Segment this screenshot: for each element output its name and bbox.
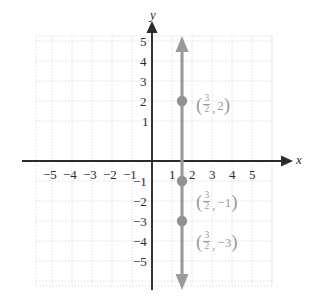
y-axis-label: y: [150, 8, 156, 21]
open-paren: (: [196, 95, 202, 114]
fraction-three-halves: 3 2: [203, 94, 210, 114]
label-y-value: −3: [217, 236, 231, 249]
close-paren: ): [224, 95, 230, 114]
x-axis-label: x: [296, 153, 302, 166]
point-label-three-halves-negative-three: ( 3 2 , −3 ): [196, 232, 238, 252]
y-tick-label: −1: [133, 175, 147, 188]
x-tick-label: −4: [63, 168, 77, 181]
fraction-three-halves: 3 2: [203, 191, 210, 211]
open-paren: (: [196, 192, 202, 211]
x-tick-label: −2: [103, 168, 117, 181]
y-tick-label: 5: [140, 35, 147, 48]
point-marker: [177, 216, 187, 226]
point-marker: [177, 96, 187, 106]
close-paren: ): [231, 232, 237, 251]
x-tick-label: 1: [169, 168, 176, 181]
plotted-line-x-equals-three-halves: [176, 36, 189, 290]
open-paren: (: [196, 232, 202, 251]
close-paren: ): [231, 192, 237, 211]
label-comma: ,: [212, 199, 215, 211]
y-tick-label: −5: [133, 255, 147, 268]
y-tick-label: 1: [142, 115, 149, 128]
graph-canvas: [0, 0, 312, 305]
x-tick-label: 2: [189, 168, 196, 181]
coordinate-plane-figure: y x −5 −4 −3 −2 −1 1 2 3 4 5 5 4 3 2 1 −…: [0, 0, 312, 305]
y-tick-label: 3: [140, 75, 147, 88]
y-tick-label: −3: [133, 215, 147, 228]
x-tick-label: −5: [43, 168, 57, 181]
y-tick-label: 2: [140, 95, 147, 108]
x-tick-label: 4: [229, 168, 236, 181]
point-label-three-halves-negative-one: ( 3 2 , −1 ): [196, 192, 238, 212]
y-tick-label: 4: [140, 55, 147, 68]
y-tick-label: −4: [133, 235, 147, 248]
label-comma: ,: [212, 239, 215, 251]
point-label-three-halves-two: ( 3 2 , 2 ): [196, 95, 230, 115]
fraction-three-halves: 3 2: [203, 231, 210, 251]
y-tick-label: −2: [133, 195, 147, 208]
x-tick-label: −3: [83, 168, 97, 181]
label-y-value: −1: [217, 196, 231, 209]
x-tick-label: 3: [209, 168, 216, 181]
x-tick-label: 5: [249, 168, 256, 181]
label-comma: ,: [212, 102, 215, 114]
point-marker: [177, 176, 187, 186]
